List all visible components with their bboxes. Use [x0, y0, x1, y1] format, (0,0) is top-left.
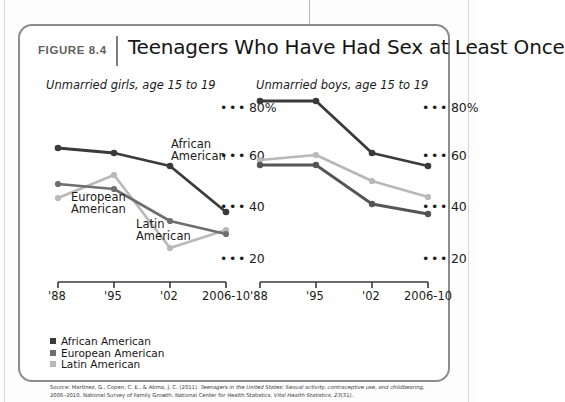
source-line2-plain: 2006–2010. National Survey of Family Gro… — [50, 392, 274, 398]
legend-label-african-american: African American — [61, 335, 151, 347]
source-citation: Source: Martinez, G., Copen, C. E., & Ab… — [50, 383, 442, 399]
x-axis-girls: '88 '95 '02 2006-10 — [32, 278, 244, 308]
x-label-02-girls: '02 — [160, 289, 178, 303]
source-line1-italic: Teenagers in the United States: Sexual a… — [200, 384, 424, 390]
panel-caption-girls: Unmarried girls, age 15 to 19 — [46, 78, 216, 92]
y-tick-20-boys: •••20 — [422, 251, 467, 266]
plot-area-boys: •••80% •••60 •••40 •••20 — [242, 96, 450, 278]
girls-line-chart — [32, 96, 244, 278]
page-edge-rule-left — [4, 0, 5, 402]
x-axis-rule-boys — [242, 278, 450, 288]
legend-swatch-icon-latin-american — [50, 361, 56, 367]
dot-leader-icon: ••• — [422, 251, 449, 266]
x-axis-rule-girls — [32, 278, 244, 288]
y-tick-40-boys: •••40 — [422, 199, 467, 214]
legend-item-european-american: European American — [50, 348, 164, 359]
source-line2-italic: Vital Health Statistics, 23 — [274, 392, 341, 398]
figure-box: FIGURE 8.4 Teenagers Who Have Had Sex at… — [18, 24, 450, 382]
legend-label-european-american: European American — [61, 347, 164, 359]
legend-label-latin-american: Latin American — [61, 358, 140, 370]
y-tick-60-boys: •••60 — [422, 148, 467, 163]
x-label-95-boys: '95 — [306, 289, 324, 303]
series-label-latin-american-girls: Latin American — [136, 218, 191, 242]
dot-leader-icon: ••• — [422, 199, 449, 214]
x-label-02-boys: '02 — [362, 289, 380, 303]
panel-caption-boys: Unmarried boys, age 15 to 19 — [256, 78, 428, 92]
y-tick-80-boys: •••80% — [422, 100, 479, 115]
dot-leader-icon: ••• — [422, 100, 449, 115]
figure-title: Teenagers Who Have Had Sex at Least Once — [128, 35, 565, 59]
source-line2-tail: (31). — [341, 392, 354, 398]
legend-item-latin-american: Latin American — [50, 359, 164, 370]
x-axis-boys: '88 '95 '02 2006-10 — [242, 278, 450, 308]
series-label-european-american-girls: European American — [71, 191, 126, 215]
legend-item-african-american: African American — [50, 336, 164, 347]
figure-header: FIGURE 8.4 Teenagers Who Have Had Sex at… — [20, 32, 448, 70]
x-label-88-boys: '88 — [250, 289, 268, 303]
legend-swatch-icon-african-american — [50, 338, 56, 344]
boys-line-chart — [242, 96, 450, 278]
dot-leader-icon: ••• — [422, 148, 449, 163]
chart-legend: African American European American Latin… — [50, 336, 164, 371]
x-label-2006-10-boys: 2006-10 — [404, 289, 452, 303]
legend-swatch-icon-european-american — [50, 350, 56, 356]
chart-panel-girls: Unmarried girls, age 15 to 19 — [32, 78, 244, 308]
series-label-african-american-girls: African American — [171, 138, 226, 162]
header-divider — [116, 36, 118, 66]
page-edge-rule-right — [468, 0, 469, 402]
figure-number: FIGURE 8.4 — [38, 44, 107, 56]
chart-panel-boys: Unmarried boys, age 15 to 19 — [242, 78, 450, 308]
page-top-rule — [309, 0, 310, 24]
plot-area-girls: •••80% •••60 •••40 •••20 African America… — [32, 96, 244, 278]
x-label-95-girls: '95 — [104, 289, 122, 303]
x-label-88-girls: '88 — [48, 289, 66, 303]
series-line-african-american-boys — [260, 101, 428, 166]
source-line1-plain: Source: Martinez, G., Copen, C. E., & Ab… — [50, 384, 200, 390]
